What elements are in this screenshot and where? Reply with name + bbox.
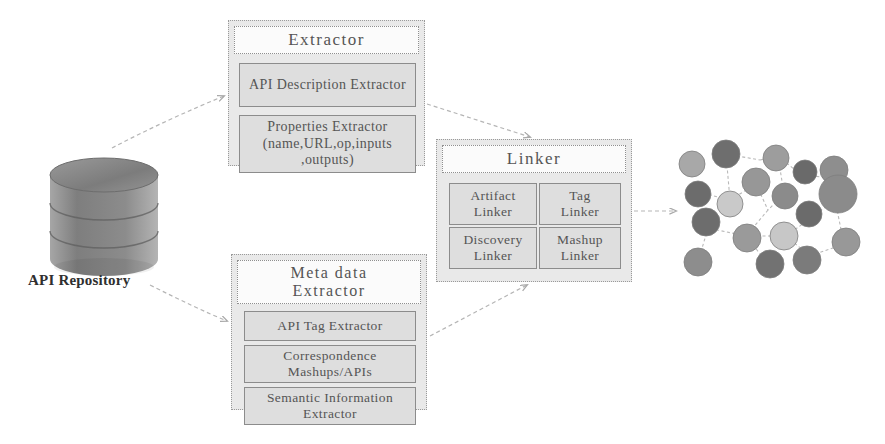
api-description-extractor-box[interactable]: API Description Extractor <box>239 63 416 107</box>
tag-linker-label-line2: Linker <box>561 204 599 220</box>
metadata-extractor-title: Meta data Extractor <box>237 260 421 304</box>
mashup-linker-label-line2: Linker <box>557 248 603 264</box>
network-graph-nodes <box>679 140 860 278</box>
properties-extractor-label-line2: (name,URL,op,inputs <box>263 136 392 153</box>
connector-extractor-to-linker <box>427 104 530 137</box>
artifact-linker-label-line1: Artifact <box>470 188 515 204</box>
network-graph <box>668 132 878 287</box>
metadata-extractor-title-line1: Meta data <box>290 264 367 282</box>
artifact-linker-box[interactable]: Artifact Linker <box>449 183 537 225</box>
extractor-title: Extractor <box>234 26 419 54</box>
extractor-module[interactable]: Extractor API Description Extractor Prop… <box>228 20 425 166</box>
discovery-linker-box[interactable]: Discovery Linker <box>449 227 537 269</box>
connector-repo-to-metadata <box>150 285 227 321</box>
discovery-linker-label-line1: Discovery <box>463 232 522 248</box>
linker-title: Linker <box>442 145 626 173</box>
semantic-information-label-line1: Semantic Information <box>267 390 393 406</box>
metadata-extractor-title-line2: Extractor <box>292 282 365 300</box>
properties-extractor-label-line3: ,outputs) <box>263 152 392 169</box>
correspondence-label-line1: Correspondence <box>283 348 376 364</box>
properties-extractor-label-line1: Properties Extractor <box>263 119 392 136</box>
api-tag-extractor-label: API Tag Extractor <box>277 318 382 334</box>
api-repository-label: API Repository <box>28 272 178 289</box>
connector-repo-to-extractor <box>112 96 224 148</box>
tag-linker-box[interactable]: Tag Linker <box>539 183 621 225</box>
discovery-linker-label-line2: Linker <box>463 248 522 264</box>
semantic-information-extractor-box[interactable]: Semantic Information Extractor <box>244 387 416 425</box>
linker-module[interactable]: Linker Artifact Linker Tag Linker Discov… <box>436 139 632 282</box>
tag-linker-label-line1: Tag <box>561 188 599 204</box>
artifact-linker-label-line2: Linker <box>470 204 515 220</box>
api-repository-cylinder <box>46 155 162 285</box>
mashup-linker-label-line1: Mashup <box>557 232 603 248</box>
correspondence-mashups-apis-box[interactable]: Correspondence Mashups/APIs <box>244 345 416 383</box>
api-tag-extractor-box[interactable]: API Tag Extractor <box>244 311 416 341</box>
diagram-canvas: API Repository Extractor API Description… <box>0 0 885 444</box>
api-description-extractor-label: API Description Extractor <box>249 77 406 94</box>
correspondence-label-line2: Mashups/APIs <box>283 364 376 380</box>
connector-metadata-to-linker <box>430 285 527 336</box>
properties-extractor-box[interactable]: Properties Extractor (name,URL,op,inputs… <box>239 115 416 173</box>
metadata-extractor-module[interactable]: Meta data Extractor API Tag Extractor Co… <box>231 254 427 410</box>
mashup-linker-box[interactable]: Mashup Linker <box>539 227 621 269</box>
semantic-information-label-line2: Extractor <box>267 406 393 422</box>
